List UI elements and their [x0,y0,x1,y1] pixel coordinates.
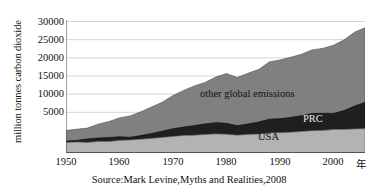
x-axis-unit-year: 年 [356,156,366,171]
x-axis-tick-labels: 1950 1960 1970 1980 1990 2000 [0,0,378,194]
x-tick-1950: 1950 [56,156,77,167]
source-caption: Source:Mark Levine,Myths and Realities,2… [0,174,378,185]
x-tick-1970: 1970 [163,156,184,167]
x-tick-1960: 1960 [109,156,130,167]
x-tick-1990: 1990 [270,156,291,167]
x-tick-1980: 1980 [216,156,237,167]
x-tick-2000: 2000 [323,156,344,167]
chart-figure: million tonnes carbon dioxide 30000 2500… [0,0,378,194]
